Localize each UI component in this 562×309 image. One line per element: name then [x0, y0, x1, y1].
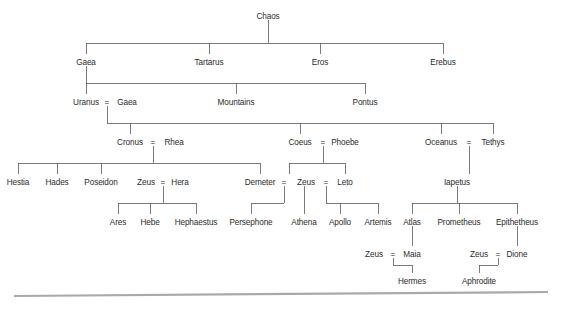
node-apollo: Apollo — [329, 218, 352, 227]
union-oceanus-tethys: = — [467, 138, 472, 147]
connector-uranus-gaea-children — [107, 106, 493, 134]
node-ares: Ares — [110, 218, 126, 227]
node-cronus: Cronus — [117, 138, 143, 147]
node-oceanus: Oceanus — [425, 138, 457, 147]
connector-zeus-hera-children — [118, 186, 196, 214]
connector-zeus-dione-children — [479, 258, 498, 273]
node-iapetus: Iapetus — [444, 178, 470, 187]
node-zeus-2: Zeus — [297, 178, 315, 187]
node-mountains: Mountains — [218, 98, 255, 107]
node-epitheteus: Epithetheus — [496, 218, 538, 227]
node-prometheus: Prometheus — [437, 218, 480, 227]
node-eros: Eros — [312, 58, 328, 67]
node-aphrodite: Aphrodite — [462, 277, 497, 286]
union-cronus-rhea: = — [151, 138, 156, 147]
node-tartarus: Tartarus — [195, 58, 224, 67]
node-hermes: Hermes — [398, 277, 426, 286]
genealogy-diagram: = = = = = = = = = Chaos Gaea Tartarus Er… — [0, 0, 562, 309]
node-zeus-1: Zeus — [137, 178, 155, 187]
union-zeus-leto: = — [324, 178, 329, 187]
node-hades: Hades — [45, 178, 68, 187]
node-phoebe: Phoebe — [331, 138, 359, 147]
node-demeter: Demeter — [245, 178, 276, 187]
connector-zeus-maia-children — [393, 258, 412, 273]
connector-coeus-phoebe-children — [289, 146, 345, 174]
node-maia: Maia — [403, 250, 421, 259]
node-persephone: Persephone — [229, 218, 273, 227]
connector-cronus-rhea-children — [18, 146, 260, 174]
node-gaea-1: Gaea — [76, 58, 96, 67]
node-zeus-4: Zeus — [470, 250, 488, 259]
node-labels: Chaos Gaea Tartarus Eros Erebus Uranus G… — [7, 12, 538, 286]
node-atlas: Atlas — [403, 218, 421, 227]
node-hera: Hera — [171, 178, 189, 187]
connector-chaos-children — [86, 20, 443, 54]
union-uranus-gaea: = — [105, 98, 110, 107]
node-dione: Dione — [507, 250, 528, 259]
union-demeter-zeus: = — [282, 178, 287, 187]
connector-gaea-children — [86, 66, 365, 94]
node-uranus: Uranus — [73, 98, 99, 107]
node-hestia: Hestia — [7, 178, 30, 187]
node-gaea-2: Gaea — [117, 98, 137, 107]
connector-demeter-zeus-children — [251, 186, 284, 214]
footer-divider-rule — [14, 292, 548, 296]
connector-iapetus-children — [412, 186, 517, 214]
node-leto: Leto — [337, 178, 353, 187]
node-poseidon: Poseidon — [84, 178, 118, 187]
family-tree-svg: = = = = = = = = = Chaos Gaea Tartarus Er… — [0, 0, 562, 309]
node-zeus-3: Zeus — [365, 250, 383, 259]
node-chaos: Chaos — [256, 12, 279, 21]
node-athena: Athena — [291, 218, 317, 227]
node-hebe: Hebe — [140, 218, 160, 227]
union-zeus-hera: = — [161, 178, 166, 187]
node-erebus: Erebus — [430, 58, 455, 67]
union-coeus-phoebe: = — [321, 138, 326, 147]
connector-zeus-leto-children — [326, 186, 378, 214]
union-zeus-dione: = — [496, 250, 501, 259]
node-artemis: Artemis — [364, 218, 391, 227]
node-hephaestus: Hephaestus — [175, 218, 218, 227]
node-pontus: Pontus — [353, 98, 378, 107]
node-coeus: Coeus — [288, 138, 311, 147]
node-tethys: Tethys — [481, 138, 504, 147]
node-rhea: Rhea — [164, 138, 184, 147]
union-zeus-maia: = — [391, 250, 396, 259]
